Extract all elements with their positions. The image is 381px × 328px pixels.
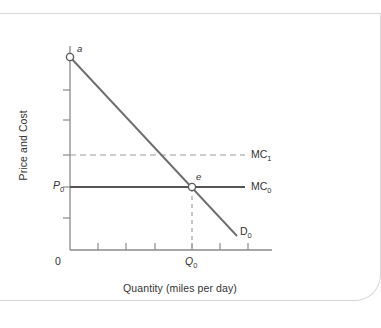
- d0-subscript: 0: [248, 231, 252, 240]
- y-axis-ticks: [63, 90, 70, 218]
- q0-subscript: 0: [193, 261, 197, 270]
- x-axis-title: Quantity (miles per day): [80, 283, 280, 294]
- mc1-subscript: 1: [267, 154, 271, 163]
- point-a-label: a: [77, 44, 82, 54]
- origin-label: 0: [55, 256, 61, 267]
- point-a-marker: [66, 53, 73, 60]
- demand-curve-d0: [70, 57, 237, 236]
- mc1-base: MC: [251, 148, 267, 160]
- point-e-marker: [188, 183, 195, 190]
- y-axis-title: Price and Cost: [18, 95, 29, 195]
- economics-figure: Price and Cost Quantity (miles per day) …: [0, 0, 381, 328]
- p0-base: P: [53, 179, 60, 191]
- p0-subscript: 0: [60, 185, 64, 194]
- plot-canvas: [0, 0, 381, 328]
- d0-base: D: [240, 225, 248, 237]
- d0-label: D0: [240, 226, 252, 237]
- mc0-label: MC0: [251, 181, 272, 192]
- q0-base: Q: [185, 255, 193, 267]
- mc1-label: MC1: [251, 149, 272, 160]
- q0-axis-label: Q0: [185, 256, 197, 267]
- p0-axis-label: P0: [53, 180, 64, 191]
- point-e-label: e: [196, 172, 201, 182]
- x-axis-ticks: [98, 243, 248, 250]
- mc0-subscript: 0: [267, 186, 271, 195]
- mc0-base: MC: [251, 180, 267, 192]
